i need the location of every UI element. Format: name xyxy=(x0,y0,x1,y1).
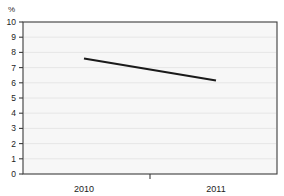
chart-container: % 109876543210 20102011 xyxy=(0,0,284,196)
x-axis-tick-label: 2010 xyxy=(74,184,94,194)
y-axis-tick-label: 0 xyxy=(11,169,16,179)
y-axis-tick-label: 1 xyxy=(11,154,16,164)
y-axis-tick-label: 9 xyxy=(11,32,16,42)
y-axis-tick-label: 8 xyxy=(11,47,16,57)
y-axis-tick-label: 7 xyxy=(11,63,16,73)
y-axis-tick-label: 10 xyxy=(7,17,17,27)
y-axis-tick-label: 3 xyxy=(11,123,16,133)
line-chart-plot: 109876543210 20102011 xyxy=(0,0,284,196)
y-axis-tick-label: 4 xyxy=(11,108,16,118)
y-axis-tick-labels: 109876543210 xyxy=(7,17,17,179)
y-axis-ticks xyxy=(19,22,23,174)
y-axis-tick-label: 5 xyxy=(11,93,16,103)
x-axis-tick-labels: 20102011 xyxy=(74,184,226,194)
y-axis-tick-label: 6 xyxy=(11,78,16,88)
y-axis-tick-label: 2 xyxy=(11,139,16,149)
x-axis-tick-label: 2011 xyxy=(206,184,225,194)
